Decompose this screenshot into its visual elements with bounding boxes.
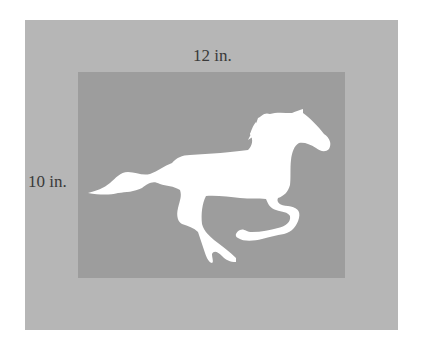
- diagram-canvas: 12 in. 10 in.: [0, 0, 421, 348]
- height-label: 10 in.: [28, 172, 67, 192]
- width-label: 12 in.: [193, 46, 232, 66]
